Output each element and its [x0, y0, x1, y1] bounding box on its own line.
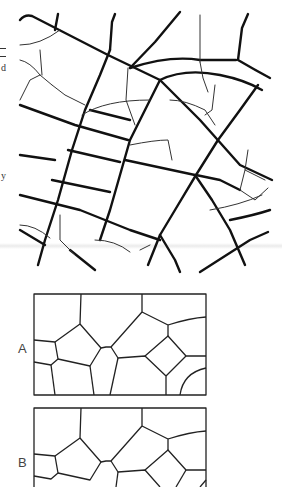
- panel-b-grain-diagram: [34, 408, 206, 487]
- panel-label-b: B: [18, 455, 27, 470]
- panel-label-a: A: [18, 341, 27, 356]
- crack-pattern-figure: [0, 0, 282, 280]
